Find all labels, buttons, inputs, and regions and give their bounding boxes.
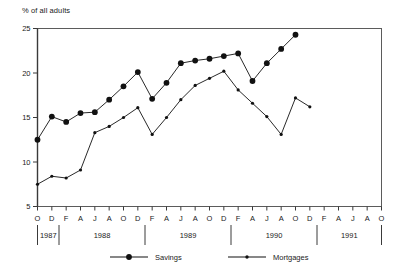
x-tick-label: A [336,214,341,223]
data-point-savings [78,110,84,116]
x-tick-label: J [93,214,97,223]
legend-swatch-marker [245,255,248,258]
y-tick-label: 15 [22,113,30,122]
data-point-savings [121,83,127,89]
series-line-mortgages [38,71,310,184]
data-point-savings [192,58,198,64]
series-line-savings [38,35,296,140]
data-point-mortgages [50,175,53,178]
data-point-savings [207,56,213,62]
data-point-savings [264,60,270,66]
year-label: 1991 [341,231,358,240]
x-tick-label: A [78,214,83,223]
x-tick-label: J [265,214,269,223]
x-tick-label: A [365,214,370,223]
axis-layer: 510152025 [22,24,381,211]
data-point-savings [149,96,155,102]
data-point-mortgages [151,133,154,136]
series-layer [35,32,312,186]
year-label: 1988 [94,231,111,240]
year-label: 1990 [266,231,283,240]
x-tick-label: A [279,214,284,223]
data-point-mortgages [265,115,268,118]
x-tick-label: D [307,214,313,223]
data-point-savings [135,69,141,75]
y-tick-label: 25 [22,24,30,33]
data-point-mortgages [294,96,297,99]
year-band-layer: 19871988198919901991 [38,225,382,245]
data-point-mortgages [208,77,211,80]
data-point-mortgages [179,98,182,101]
x-tick-label: J [179,214,183,223]
x-tick-label: O [293,214,299,223]
data-point-mortgages [79,168,82,171]
data-point-mortgages [251,102,254,105]
chart-canvas: 510152025 ODFAJAODFAJAODFAJAODFAJAO 1987… [0,0,398,272]
x-tick-label: A [250,214,255,223]
legend-label: Mortgages [273,253,309,262]
data-point-mortgages [122,116,125,119]
x-tick-label: A [193,214,198,223]
x-tick-label: J [351,214,355,223]
x-tick-label: A [164,214,169,223]
data-point-mortgages [280,133,283,136]
y-tick-label: 20 [22,69,30,78]
x-tick-label: D [221,214,227,223]
y-tick-label: 5 [26,202,30,211]
chart-legend: SavingsMortgages [110,253,309,262]
data-point-mortgages [237,88,240,91]
x-tick-label: A [107,214,112,223]
data-point-savings [164,80,170,86]
data-point-mortgages [308,105,311,108]
x-tick-label: D [135,214,141,223]
data-point-savings [106,97,112,103]
data-point-mortgages [65,176,68,179]
x-tick-label: O [379,214,385,223]
line-chart-svg: 510152025 ODFAJAODFAJAODFAJAODFAJAO 1987… [0,0,398,272]
x-tick-label: F [322,214,327,223]
data-point-savings [178,60,184,66]
x-tick-label: F [236,214,241,223]
data-point-savings [221,53,227,59]
data-point-mortgages [136,106,139,109]
data-point-savings [250,78,256,84]
x-tick-label: O [121,214,127,223]
chart-root: % of all adults 510152025 ODFAJAODFAJAOD… [0,0,398,272]
data-point-savings [235,51,241,57]
data-point-savings [92,109,98,115]
x-tick-label: O [207,214,213,223]
x-axis-layer: ODFAJAODFAJAODFAJAODFAJAO [35,207,385,224]
legend-swatch-marker [126,254,132,260]
x-tick-label: F [64,214,69,223]
data-point-savings [293,32,299,38]
data-point-mortgages [222,70,225,73]
data-point-savings [278,46,284,52]
data-point-savings [35,137,41,143]
x-tick-label: D [49,214,55,223]
year-label: 1989 [180,231,197,240]
x-tick-label: O [35,214,41,223]
y-tick-label: 10 [22,158,30,167]
plot-frame [38,29,382,207]
year-label: 1987 [40,231,57,240]
legend-label: Savings [155,253,182,262]
data-point-mortgages [108,125,111,128]
data-point-savings [49,114,55,120]
data-point-mortgages [194,84,197,87]
data-point-mortgages [36,183,39,186]
data-point-savings [63,119,69,125]
x-tick-label: F [150,214,155,223]
data-point-mortgages [93,131,96,134]
data-point-mortgages [165,116,168,119]
